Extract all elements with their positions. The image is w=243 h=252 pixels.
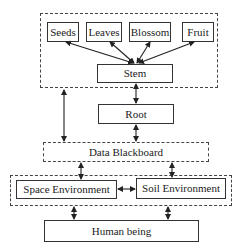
seeds-stem-arrow [66, 42, 133, 63]
fruit-stem-arrow [139, 42, 194, 63]
connector-arrows [0, 0, 243, 252]
